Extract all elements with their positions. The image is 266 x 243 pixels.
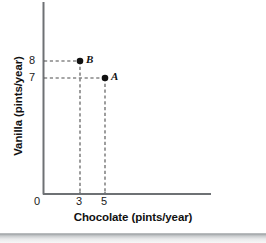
data-point-label-a: A — [111, 71, 118, 82]
plot-area: 8 7 0 3 5 B A Chocolate (pints/year) Van… — [0, 0, 266, 243]
y-tick-label-7: 7 — [29, 72, 35, 83]
data-point-label-b: B — [86, 54, 93, 65]
data-point-b — [77, 58, 84, 65]
x-tick-label-3: 3 — [76, 196, 82, 207]
x-tick-label-0: 0 — [34, 196, 40, 207]
y-axis-title: Vanilla (pints/year) — [12, 36, 24, 176]
y-tick-label-8: 8 — [29, 55, 35, 66]
x-tick-label-5: 5 — [101, 196, 107, 207]
chart-figure: 8 7 0 3 5 B A Chocolate (pints/year) Van… — [0, 0, 266, 243]
bottom-strip — [0, 234, 266, 243]
data-point-a — [102, 75, 109, 82]
x-axis-title: Chocolate (pints/year) — [0, 211, 266, 223]
